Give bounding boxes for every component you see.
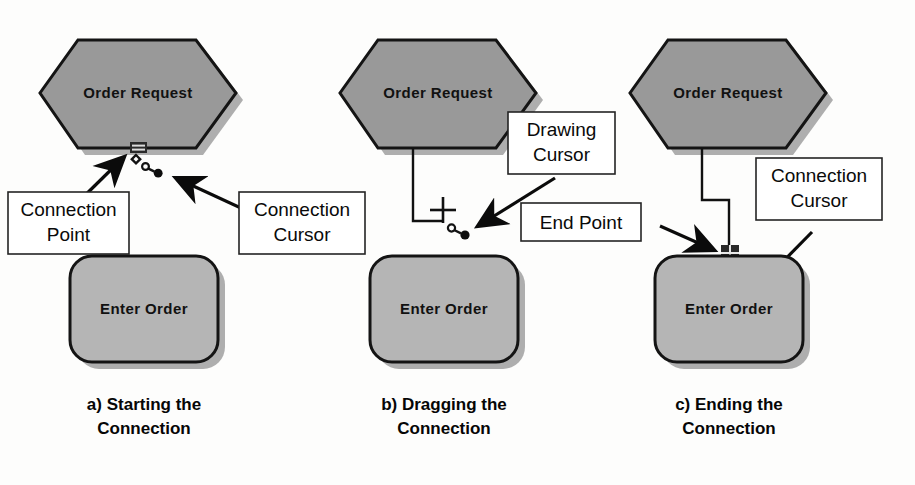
callout-connection-cursor-c-line1: Connection [771,165,867,186]
arrow-end-point-c [660,226,714,250]
callout-connection-point-line2: Point [47,224,91,245]
caption-c-line1: c) Ending the [675,395,783,414]
figure-connection-drawing: Order Request Connection [0,0,915,485]
panel-c: Order Request End [521,40,882,438]
caption-a-line1: a) Starting the [87,395,201,414]
shape-label-order-request-b: Order Request [383,84,492,101]
connection-cursor-icon [132,155,163,178]
callout-connection-point-line1: Connection [20,199,116,220]
callout-drawing-cursor[interactable]: Drawing Cursor [508,112,615,174]
caption-c-line2: Connection [682,419,776,438]
shape-label-order-request-a: Order Request [83,84,192,101]
callout-connection-cursor-c[interactable]: Connection Cursor [756,158,882,220]
callout-drawing-cursor-line2: Cursor [533,144,591,165]
connection-point-handle-icon[interactable] [130,142,147,153]
callout-drawing-cursor-line1: Drawing [527,119,597,140]
caption-b-line1: b) Dragging the [381,395,507,414]
shape-label-enter-order-b: Enter Order [400,300,488,317]
callout-connection-cursor-c-line2: Cursor [790,190,848,211]
callout-connection-point[interactable]: Connection Point [8,192,129,254]
callout-end-point-label: End Point [540,212,623,233]
callout-connection-cursor-a-line2: Cursor [273,224,331,245]
panel-a: Order Request Connection [8,40,365,438]
crosshair-cursor-icon [430,197,470,240]
callout-end-point[interactable]: End Point [521,203,641,241]
shape-label-enter-order-a: Enter Order [100,300,188,317]
shape-label-enter-order-c: Enter Order [685,300,773,317]
callout-connection-cursor-a-line1: Connection [254,199,350,220]
connection-line-c[interactable] [702,148,729,248]
callout-connection-cursor-a[interactable]: Connection Cursor [239,192,365,254]
diagram-canvas: Order Request Connection [0,0,915,485]
caption-a-line2: Connection [97,419,191,438]
shape-label-order-request-c: Order Request [673,84,782,101]
caption-b-line2: Connection [397,419,491,438]
